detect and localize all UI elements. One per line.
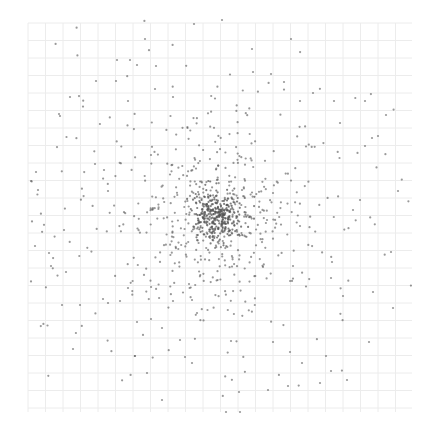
data-point [250, 142, 252, 144]
data-point [186, 126, 188, 128]
data-point [165, 129, 167, 131]
data-point [207, 112, 209, 114]
data-point [156, 218, 158, 220]
data-point [206, 218, 208, 220]
data-point [214, 141, 216, 143]
data-point [237, 220, 239, 222]
data-point [76, 54, 78, 56]
data-point [201, 227, 203, 229]
data-point [209, 180, 211, 182]
data-point [168, 349, 170, 351]
data-point [196, 312, 198, 314]
data-point [41, 231, 43, 233]
data-point [193, 23, 195, 25]
data-point [294, 201, 296, 203]
data-point [198, 200, 200, 202]
data-point [161, 186, 163, 188]
data-point [197, 261, 199, 263]
data-point [260, 238, 262, 240]
data-point [195, 249, 197, 251]
data-point [195, 183, 197, 185]
data-point [173, 282, 175, 284]
data-point [224, 151, 226, 153]
data-point [273, 184, 275, 186]
data-point [96, 228, 98, 230]
data-point [204, 258, 206, 260]
data-point [113, 205, 115, 207]
data-point [244, 267, 246, 269]
data-point [230, 240, 232, 242]
data-point [248, 281, 250, 283]
data-point [194, 180, 196, 182]
data-point [225, 223, 227, 225]
data-point [75, 137, 77, 139]
data-point [268, 82, 270, 84]
data-point [264, 160, 266, 162]
data-point [127, 263, 129, 265]
data-point [181, 165, 183, 167]
data-point [261, 209, 263, 211]
data-point [250, 232, 252, 234]
data-point [255, 244, 257, 246]
data-point [327, 197, 329, 199]
data-point [154, 88, 156, 90]
data-point [266, 219, 268, 221]
data-point [137, 264, 139, 266]
data-point [269, 199, 271, 201]
data-point [298, 385, 300, 387]
data-point [80, 199, 82, 201]
data-point [172, 44, 174, 46]
data-point [158, 297, 160, 299]
data-point [127, 100, 129, 102]
data-point [202, 192, 204, 194]
data-point [136, 64, 138, 66]
data-point [69, 241, 71, 243]
data-point [264, 178, 266, 180]
data-point [209, 195, 211, 197]
data-point [244, 214, 246, 216]
data-point [226, 207, 228, 209]
data-point [165, 244, 167, 246]
data-point [116, 59, 118, 61]
data-point [65, 136, 67, 138]
data-point [159, 251, 161, 253]
data-point [212, 239, 214, 241]
data-point [216, 202, 218, 204]
data-point [255, 228, 257, 230]
data-point [227, 193, 229, 195]
data-point [308, 144, 310, 146]
data-point [223, 217, 225, 219]
data-point [356, 152, 358, 154]
data-point [126, 124, 128, 126]
data-point [219, 211, 221, 213]
data-point [333, 216, 335, 218]
data-point [248, 309, 250, 311]
data-point [197, 191, 199, 193]
data-point [200, 255, 202, 257]
data-point [131, 169, 133, 171]
data-point [191, 169, 193, 171]
data-point [191, 299, 193, 301]
data-point [377, 135, 379, 137]
data-point [343, 229, 345, 231]
data-point [292, 278, 294, 280]
data-point [99, 123, 101, 125]
data-point [150, 154, 152, 156]
data-point [76, 27, 78, 29]
data-point [202, 240, 204, 242]
data-point [282, 324, 284, 326]
data-point [207, 209, 209, 211]
data-point [36, 193, 38, 195]
data-point [229, 219, 231, 221]
data-point [290, 180, 292, 182]
data-point [219, 203, 221, 205]
data-point [119, 300, 121, 302]
data-point [207, 193, 209, 195]
data-point [227, 222, 229, 224]
data-point [245, 112, 247, 114]
data-point [210, 111, 212, 113]
data-point [170, 170, 172, 172]
data-point [210, 189, 212, 191]
data-point [106, 230, 108, 232]
data-point [301, 362, 303, 364]
